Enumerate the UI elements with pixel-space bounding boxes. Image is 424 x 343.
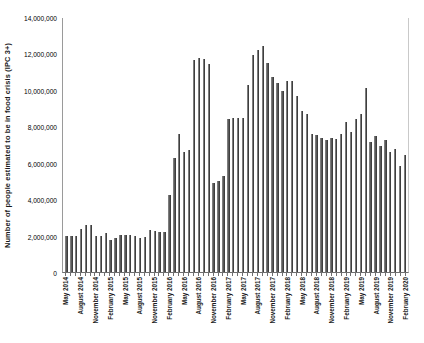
bar	[379, 146, 381, 272]
bar	[217, 181, 219, 272]
bar	[301, 111, 303, 272]
x-axis-tick-mark	[296, 273, 297, 276]
x-axis-tick-mark	[173, 273, 174, 276]
bar	[389, 152, 391, 272]
bar	[266, 63, 268, 272]
bar	[311, 134, 313, 272]
x-axis-tick-mark	[94, 273, 95, 276]
y-axis-tick-label: 10,000,000	[24, 87, 57, 94]
bar	[237, 118, 239, 272]
bar	[158, 232, 160, 272]
y-axis-tick-label: 4,000,000	[28, 197, 57, 204]
x-axis-tick-mark	[90, 273, 91, 276]
x-axis-tick-mark	[139, 273, 140, 276]
bar	[242, 118, 244, 272]
bar	[168, 195, 170, 272]
y-axis-tick-label: 0	[53, 270, 57, 277]
x-axis-tick-mark	[168, 273, 169, 276]
x-axis-tick-mark	[65, 273, 66, 276]
y-axis-tick-label: 12,000,000	[24, 51, 57, 58]
bar	[232, 118, 234, 272]
bar	[315, 135, 317, 272]
bar	[70, 236, 72, 272]
x-axis-tick-mark	[257, 273, 258, 276]
x-axis-tick-mark	[390, 273, 391, 276]
y-axis-tick-label: 6,000,000	[28, 160, 57, 167]
bar	[149, 230, 151, 272]
bar	[90, 225, 92, 272]
x-axis-tick-mark	[400, 273, 401, 276]
bar	[291, 81, 293, 272]
bar	[188, 150, 190, 272]
bar	[75, 236, 77, 272]
x-axis-tick-mark	[350, 273, 351, 276]
x-axis-label-slot: February 2020	[403, 277, 408, 343]
bar	[345, 122, 347, 272]
x-axis-tick-mark	[163, 273, 164, 276]
bar	[325, 140, 327, 272]
bar	[384, 140, 386, 272]
bar	[296, 96, 298, 272]
x-axis-tick-mark	[193, 273, 194, 276]
bar	[183, 152, 185, 272]
bar	[281, 91, 283, 272]
x-axis-tick-mark	[380, 273, 381, 276]
y-axis-tick-label: 8,000,000	[28, 124, 57, 131]
bar	[257, 50, 259, 272]
x-axis-tick-mark	[336, 273, 337, 276]
x-axis-tick-mark	[341, 273, 342, 276]
y-axis-tick-labels: 14,000,00012,000,00010,000,0008,000,0006…	[14, 18, 60, 273]
bar	[330, 138, 332, 272]
x-axis-tick-mark	[119, 273, 120, 276]
x-axis-tick-mark	[203, 273, 204, 276]
bar	[394, 149, 396, 272]
x-axis-tick-mark	[208, 273, 209, 276]
x-axis-tick-mark	[385, 273, 386, 276]
x-axis-tick-mark	[188, 273, 189, 276]
x-axis-tick-mark	[114, 273, 115, 276]
bar	[85, 225, 87, 272]
plot-area	[62, 18, 409, 273]
x-axis-tick-mark	[124, 273, 125, 276]
x-axis-tick-mark	[80, 273, 81, 276]
x-axis-tick-mark	[70, 273, 71, 276]
bar	[203, 59, 205, 272]
x-axis-tick-mark	[99, 273, 100, 276]
x-axis-tick-mark	[104, 273, 105, 276]
x-axis-tick-mark	[331, 273, 332, 276]
x-axis-tick-mark	[282, 273, 283, 276]
x-axis-tick-mark	[198, 273, 199, 276]
bar	[340, 134, 342, 272]
bar	[369, 142, 371, 272]
x-axis-tick-mark	[272, 273, 273, 276]
x-axis-tick-mark	[247, 273, 248, 276]
bar	[350, 132, 352, 272]
x-axis-tick-mark	[227, 273, 228, 276]
x-axis-tick-mark	[346, 273, 347, 276]
bar	[139, 238, 141, 272]
x-axis-tick-mark	[154, 273, 155, 276]
x-axis-tick-mark	[262, 273, 263, 276]
bar	[222, 176, 224, 272]
x-axis-tick-mark	[109, 273, 110, 276]
bar	[178, 134, 180, 272]
bar	[399, 166, 401, 272]
x-axis-tick-mark	[242, 273, 243, 276]
bar-slot	[403, 18, 408, 272]
x-axis-tick-mark	[158, 273, 159, 276]
x-axis-tick-mark	[218, 273, 219, 276]
x-axis-tick-mark	[134, 273, 135, 276]
x-axis-tick-mark	[213, 273, 214, 276]
chart-figure: Number of people estimated to be in food…	[0, 0, 424, 343]
x-axis-tick-mark	[237, 273, 238, 276]
x-axis-tick-mark	[301, 273, 302, 276]
bar	[208, 64, 210, 272]
bar	[306, 114, 308, 272]
bar	[247, 85, 249, 272]
bar	[163, 232, 165, 272]
x-axis-tick-mark	[252, 273, 253, 276]
x-axis-tick-mark	[365, 273, 366, 276]
x-axis-tick-mark	[277, 273, 278, 276]
bar	[114, 238, 116, 272]
x-axis-tick-mark	[129, 273, 130, 276]
